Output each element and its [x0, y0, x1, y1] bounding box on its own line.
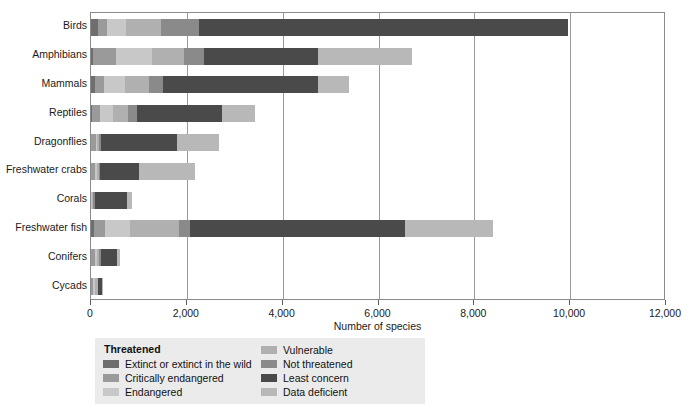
bar-row	[91, 128, 664, 157]
bar-segment	[177, 134, 219, 151]
bar-segment	[101, 134, 178, 151]
bar-segment	[95, 192, 127, 209]
bar-segment	[102, 278, 103, 295]
x-axis-tick	[665, 300, 666, 305]
bar-segment	[92, 105, 100, 122]
stacked-bar	[91, 278, 103, 295]
stacked-bar	[91, 192, 132, 209]
bar-segment	[128, 105, 137, 122]
legend-item-label: Endangered	[125, 386, 182, 398]
legend-swatch-icon	[261, 360, 277, 368]
stacked-bar	[91, 105, 255, 122]
x-axis-tick	[473, 300, 474, 305]
legend-item[interactable]: Vulnerable	[261, 344, 411, 356]
bar-row	[91, 71, 664, 100]
legend-item[interactable]: Endangered	[103, 386, 253, 398]
legend-item[interactable]: Not threatened	[261, 358, 411, 370]
legend-item[interactable]: Critically endangered	[103, 372, 253, 384]
x-axis-tick-label: 8,000	[460, 307, 486, 319]
bar-segment	[184, 48, 204, 65]
y-axis-label-conifers: Conifers	[0, 250, 87, 262]
legend-item-label: Critically endangered	[125, 372, 224, 384]
bar-segment	[139, 163, 196, 180]
legend-item[interactable]: Data deficient	[261, 386, 411, 398]
y-axis-label-mammals: Mammals	[0, 77, 87, 89]
bar-segment	[163, 76, 318, 93]
bar-segment	[161, 19, 199, 36]
x-axis-tick-label: 12,000	[649, 307, 681, 319]
y-axis-label-cycads: Cycads	[0, 279, 87, 291]
bar-segment	[130, 220, 179, 237]
stacked-bar	[91, 19, 568, 36]
bar-segment	[113, 105, 128, 122]
y-axis-label-reptiles: Reptiles	[0, 106, 87, 118]
legend-item-label: Not threatened	[283, 358, 352, 370]
bar-row	[91, 272, 664, 301]
x-axis-tick	[378, 300, 379, 305]
bar-row	[91, 186, 664, 215]
y-axis-label-corals: Corals	[0, 192, 87, 204]
bar-row	[91, 243, 664, 272]
bar-segment	[127, 192, 132, 209]
x-axis-tick-label: 10,000	[553, 307, 585, 319]
bar-row	[91, 99, 664, 128]
bar-row	[91, 13, 664, 42]
x-axis-tick	[90, 300, 91, 305]
stacked-bar	[91, 76, 349, 93]
legend-swatch-icon	[103, 374, 119, 382]
legend-swatch-icon	[103, 360, 119, 368]
bar-row	[91, 157, 664, 186]
legend: Threatened Extinct or extinct in the wil…	[95, 338, 425, 404]
bar-segment	[405, 220, 492, 237]
bar-segment	[93, 48, 116, 65]
legend-item-label: Data deficient	[283, 386, 347, 398]
bar-segment	[179, 220, 190, 237]
bar-segment	[126, 19, 161, 36]
legend-item[interactable]: Extinct or extinct in the wild	[103, 358, 253, 370]
y-axis-label-birds: Birds	[0, 19, 87, 31]
bar-segment	[105, 220, 129, 237]
legend-item-label: Extinct or extinct in the wild	[125, 358, 252, 370]
stacked-bar	[91, 220, 493, 237]
bar-segment	[98, 19, 108, 36]
stacked-bar	[91, 134, 220, 151]
x-axis-tick-label: 4,000	[269, 307, 295, 319]
y-axis-label-dragonflies: Dragonflies	[0, 135, 87, 147]
bar-segment	[152, 48, 184, 65]
bar-segment	[95, 76, 104, 93]
y-axis-label-freshwater-fish: Freshwater fish	[0, 221, 87, 233]
legend-swatch-icon	[261, 346, 277, 354]
legend-item-label: Vulnerable	[283, 344, 333, 356]
x-axis-tick	[282, 300, 283, 305]
bar-segment	[318, 48, 412, 65]
bar-segment	[199, 19, 567, 36]
x-axis-tick-label: 0	[87, 307, 93, 319]
bar-segment	[149, 76, 163, 93]
legend-item[interactable]: Least concern	[261, 372, 411, 384]
bar-segment	[107, 19, 126, 36]
y-axis-label-amphibians: Amphibians	[0, 48, 87, 60]
bar-segment	[94, 220, 106, 237]
bar-segment	[100, 163, 138, 180]
bar-segment	[100, 105, 113, 122]
bar-segment	[125, 76, 148, 93]
x-axis-title: Number of species	[90, 320, 665, 332]
bar-segment	[137, 105, 222, 122]
bar-segment	[91, 19, 98, 36]
chart-container: BirdsAmphibiansMammalsReptilesDragonflie…	[0, 0, 693, 409]
bar-row	[91, 42, 664, 71]
x-axis-tick-label: 6,000	[364, 307, 390, 319]
bar-segment	[318, 76, 349, 93]
plot-area	[90, 12, 665, 300]
bar-segment	[117, 249, 119, 266]
legend-swatch-icon	[103, 388, 119, 396]
stacked-bar	[91, 163, 195, 180]
legend-column-threatened: Extinct or extinct in the wildCritically…	[103, 358, 253, 398]
bar-segment	[190, 220, 406, 237]
legend-swatch-icon	[261, 388, 277, 396]
y-axis-label-freshwater-crabs: Freshwater crabs	[0, 163, 87, 175]
legend-item-label: Least concern	[283, 372, 349, 384]
x-axis-tick-label: 2,000	[173, 307, 199, 319]
legend-column-other: VulnerableNot threatenedLeast concernDat…	[261, 344, 411, 398]
bar-segment	[104, 76, 126, 93]
